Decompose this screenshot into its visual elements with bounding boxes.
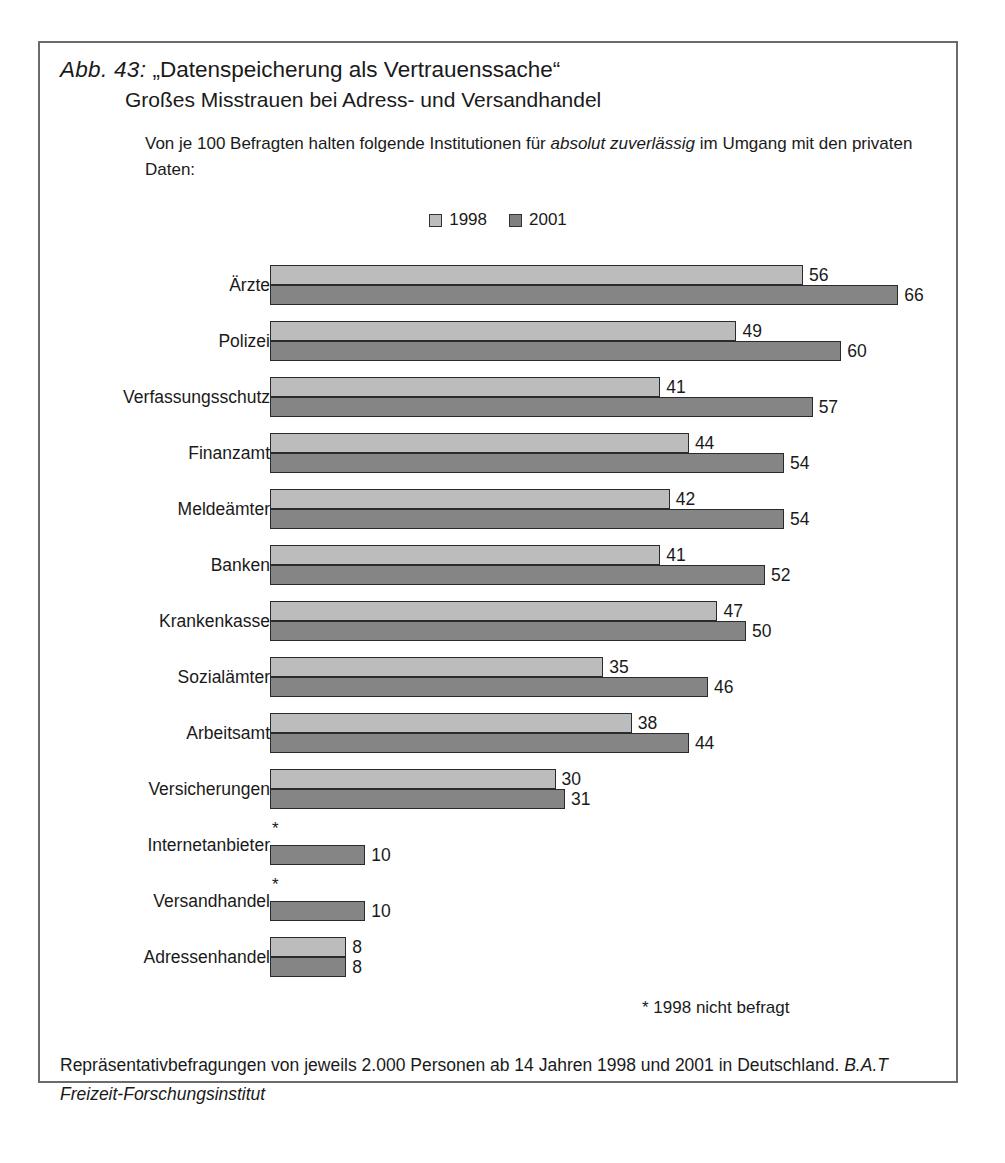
- bar-value-2001: 66: [904, 285, 923, 306]
- bar-value-2001: 31: [571, 789, 590, 810]
- bar-value-2001: 54: [790, 453, 809, 474]
- chart-row: Versandhandel*10: [40, 873, 960, 929]
- bar-group: 3844: [270, 713, 960, 753]
- bar-2001: [270, 845, 365, 865]
- bar-line-1998: 41: [270, 545, 960, 565]
- legend-label-1998: 1998: [449, 210, 487, 230]
- bar-line-2001: 8: [270, 957, 960, 977]
- category-label-arbeitsamt: Arbeitsamt: [186, 723, 270, 744]
- category-label-versandhandel: Versandhandel: [153, 891, 270, 912]
- category-label-krankenkasse: Krankenkasse: [159, 611, 270, 632]
- chart-row: Banken4152: [40, 537, 960, 593]
- title-main-text: „Datenspeicherung als Vertrauenssache“: [152, 57, 560, 82]
- bar-value-1998: 41: [666, 545, 685, 566]
- bar-2001: [270, 565, 765, 585]
- subtitle-emphasis: absolut zuverlässig: [550, 134, 695, 153]
- chart-row: Versicherungen3031: [40, 761, 960, 817]
- figure-source: Repräsentativbefragungen von jeweils 2.0…: [60, 1051, 940, 1109]
- bar-2001: [270, 789, 565, 809]
- chart-footnote: * 1998 nicht befragt: [642, 998, 789, 1018]
- bar-1998: [270, 489, 670, 509]
- bar-2001: [270, 957, 346, 977]
- chart-row: Krankenkasse4750: [40, 593, 960, 649]
- bar-1998: [270, 433, 689, 453]
- bar-line-1998: 35: [270, 657, 960, 677]
- title-line-2: Großes Misstrauen bei Adress- und Versan…: [125, 85, 940, 115]
- bar-1998: [270, 713, 632, 733]
- bar-line-2001: 50: [270, 621, 960, 641]
- subtitle-text-pre: Von je 100 Befragten halten folgende Ins…: [145, 134, 550, 153]
- bar-line-1998: 38: [270, 713, 960, 733]
- chart-row: Sozialämter3546: [40, 649, 960, 705]
- legend-label-2001: 2001: [529, 210, 567, 230]
- category-label-banken: Banken: [211, 555, 270, 576]
- bar-group: 88: [270, 937, 960, 977]
- legend-swatch-2001-icon: [509, 214, 522, 227]
- bar-2001: [270, 621, 746, 641]
- chart-row: Adressenhandel88: [40, 929, 960, 985]
- bar-value-2001: 60: [847, 341, 866, 362]
- figure-subtitle: Von je 100 Befragten halten folgende Ins…: [145, 131, 935, 183]
- chart-plot-area: Ärzte5666Polizei4960Verfassungsschutz415…: [40, 257, 960, 985]
- bar-1998: [270, 601, 717, 621]
- bar-2001: [270, 397, 813, 417]
- legend-item-1998: 1998: [429, 210, 487, 230]
- category-label-verfassungsschutz: Verfassungsschutz: [123, 387, 270, 408]
- bar-line-2001: 54: [270, 509, 960, 529]
- bar-value-2001: 8: [352, 957, 362, 978]
- bar-2001: [270, 341, 841, 361]
- category-label--rzte: Ärzte: [229, 275, 270, 296]
- bar-value-2001: 52: [771, 565, 790, 586]
- bar-2001: [270, 733, 689, 753]
- bar-group: 5666: [270, 265, 960, 305]
- chart-row: Internetanbieter*10: [40, 817, 960, 873]
- bar-group: 3546: [270, 657, 960, 697]
- bar-line-1998: 42: [270, 489, 960, 509]
- bar-line-1998: 8: [270, 937, 960, 957]
- bar-2001: [270, 453, 784, 473]
- bar-group: *10: [270, 825, 960, 865]
- bar-line-2001: 44: [270, 733, 960, 753]
- bar-value-1998: 56: [809, 265, 828, 286]
- legend-swatch-1998-icon: [429, 214, 442, 227]
- bar-value-2001: 10: [371, 845, 390, 866]
- bar-value-2001: 10: [371, 901, 390, 922]
- bar-1998: [270, 321, 736, 341]
- bar-line-2001: 10: [270, 901, 960, 921]
- bar-value-1998: 42: [676, 489, 695, 510]
- figure-number-label: Abb. 43:: [60, 57, 146, 82]
- bar-line-2001: 54: [270, 453, 960, 473]
- category-label-finanzamt: Finanzamt: [188, 443, 270, 464]
- title-line-1: Abb. 43: „Datenspeicherung als Vertrauen…: [60, 55, 940, 85]
- bar-line-1998: 41: [270, 377, 960, 397]
- category-label-adressenhandel: Adressenhandel: [144, 947, 270, 968]
- bar-line-1998: 44: [270, 433, 960, 453]
- bar-value-1998: 30: [562, 769, 581, 790]
- bar-line-2001: 10: [270, 845, 960, 865]
- bar-line-2001: 66: [270, 285, 960, 305]
- category-label-melde-mter: Meldeämter: [178, 499, 270, 520]
- bar-group: *10: [270, 881, 960, 921]
- bar-line-2001: 46: [270, 677, 960, 697]
- bar-1998: [270, 545, 660, 565]
- bar-group: 4152: [270, 545, 960, 585]
- legend-item-2001: 2001: [509, 210, 567, 230]
- bar-line-1998: 49: [270, 321, 960, 341]
- source-text: Repräsentativbefragungen von jeweils 2.0…: [60, 1055, 844, 1075]
- no-data-asterisk: *: [272, 821, 279, 837]
- chart-row: Meldeämter4254: [40, 481, 960, 537]
- bar-value-1998: 41: [666, 377, 685, 398]
- chart-row: Finanzamt4454: [40, 425, 960, 481]
- category-label-sozial-mter: Sozialämter: [178, 667, 270, 688]
- bar-1998: [270, 265, 803, 285]
- bar-value-1998: 49: [742, 321, 761, 342]
- figure-title-block: Abb. 43: „Datenspeicherung als Vertrauen…: [60, 55, 940, 115]
- chart-legend: 1998 2001: [40, 210, 956, 230]
- bar-2001: [270, 677, 708, 697]
- bar-group: 3031: [270, 769, 960, 809]
- bar-line-2001: 52: [270, 565, 960, 585]
- bar-value-1998: 8: [352, 937, 362, 958]
- bar-value-2001: 44: [695, 733, 714, 754]
- bar-line-1998: 56: [270, 265, 960, 285]
- bar-line-2001: 31: [270, 789, 960, 809]
